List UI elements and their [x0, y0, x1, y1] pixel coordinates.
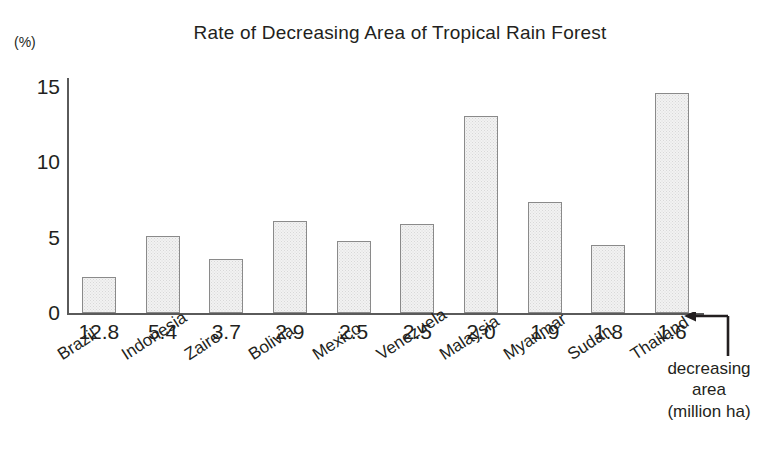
annotation-text: decreasing area (million ha) — [648, 358, 770, 422]
annotation-line-3: (million ha) — [648, 401, 770, 422]
bar-slot — [194, 78, 258, 313]
bar — [146, 236, 180, 313]
y-tick-label: 5 — [16, 227, 60, 248]
bar-slot — [513, 78, 577, 313]
bar-slot — [386, 78, 450, 313]
annotation-arrow-icon — [682, 312, 742, 364]
bar — [591, 245, 625, 313]
bar-slot — [322, 78, 386, 313]
annotation-line-2: area — [648, 379, 770, 400]
bar-slot — [131, 78, 195, 313]
y-axis-ticks: 051015 — [8, 0, 60, 464]
bar — [273, 221, 307, 313]
category-labels: BrazilIndonesiaZaireBoliviaMexicoVenezue… — [67, 348, 727, 438]
bar — [82, 277, 116, 313]
annotation-line-1: decreasing — [648, 358, 770, 379]
bar-series — [67, 78, 704, 313]
bar-slot — [67, 78, 131, 313]
bar-slot — [258, 78, 322, 313]
bar-slot — [640, 78, 704, 313]
y-tick-label: 10 — [16, 151, 60, 172]
bar — [209, 259, 243, 313]
bar — [464, 116, 498, 313]
bar — [337, 241, 371, 313]
bar — [655, 93, 689, 313]
bar — [528, 202, 562, 313]
chart-page: (%) Rate of Decreasing Area of Tropical … — [0, 0, 773, 464]
bar — [400, 224, 434, 313]
bar-slot — [449, 78, 513, 313]
y-tick-label: 15 — [16, 76, 60, 97]
bar-slot — [577, 78, 641, 313]
x-axis-line — [67, 313, 704, 315]
y-tick-label: 0 — [16, 302, 60, 323]
